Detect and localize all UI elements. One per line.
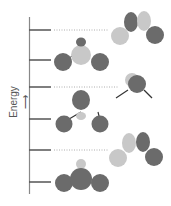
orbital-level-2 bbox=[109, 132, 163, 167]
orbital-level-4 bbox=[116, 73, 152, 98]
orbital-level-3 bbox=[56, 90, 109, 133]
orbital-level-6 bbox=[111, 11, 164, 45]
energy-levels bbox=[29, 30, 51, 182]
orbital-level-5 bbox=[54, 38, 109, 72]
orbital-level-1 bbox=[55, 159, 109, 192]
mo-diagram bbox=[0, 0, 171, 206]
